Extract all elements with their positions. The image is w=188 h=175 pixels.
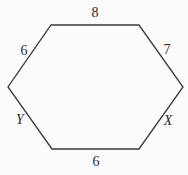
side-label-lower-right-x: X [164,114,173,128]
hexagon-outline [8,25,183,149]
side-label-lower-left-y: Y [16,113,24,127]
side-label-bottom: 6 [93,155,100,169]
side-label-upper-left: 6 [21,44,28,58]
hexagon-diagram: 8 7 X 6 Y 6 [0,0,188,175]
hexagon-svg [0,0,188,175]
side-label-upper-right: 7 [164,43,171,57]
side-label-top: 8 [92,6,99,20]
